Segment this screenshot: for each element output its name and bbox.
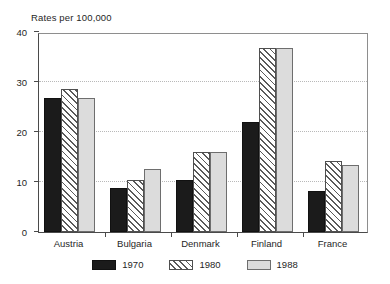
- x-axis-label-bulgaria: Bulgaria: [117, 238, 152, 249]
- x-axis-tick: [171, 232, 172, 237]
- legend-label-1970: 1970: [122, 259, 143, 270]
- x-axis-label-denmark: Denmark: [181, 238, 220, 249]
- bar-denmark-1970: [176, 180, 193, 233]
- legend-swatch-1988: [247, 260, 271, 270]
- chart-title: Rates per 100,000: [31, 12, 112, 23]
- y-axis-tick-label: 40: [16, 27, 27, 38]
- bar-france-1980: [325, 161, 342, 232]
- bar-group: [39, 34, 105, 232]
- legend-item-1970: 1970: [92, 259, 143, 270]
- bar-group: [303, 34, 369, 232]
- y-axis-tick: 40: [34, 31, 39, 32]
- bar-france-1988: [342, 165, 359, 233]
- bar-france-1970: [308, 191, 325, 233]
- bar-austria-1970: [44, 98, 61, 232]
- x-axis-tick: [237, 232, 238, 237]
- legend-label-1980: 1980: [199, 259, 220, 270]
- legend-item-1980: 1980: [169, 259, 220, 270]
- bar-austria-1988: [78, 98, 95, 233]
- legend-label-1988: 1988: [277, 259, 298, 270]
- bar-group: [171, 34, 237, 232]
- x-axis-tick: [303, 232, 304, 237]
- y-axis-tick-label: 10: [16, 177, 27, 188]
- bar-bulgaria-1988: [144, 169, 161, 232]
- plot-area: 010203040: [38, 33, 368, 233]
- bar-group: [105, 34, 171, 232]
- x-axis-label-france: France: [318, 238, 348, 249]
- bar-bulgaria-1970: [110, 188, 127, 232]
- y-axis-tick-label: 30: [16, 77, 27, 88]
- legend: 197019801988: [0, 259, 390, 270]
- bar-finland-1970: [242, 122, 259, 232]
- x-axis-label-austria: Austria: [54, 238, 84, 249]
- bar-denmark-1988: [210, 152, 227, 232]
- legend-swatch-1970: [92, 260, 116, 270]
- legend-item-1988: 1988: [247, 259, 298, 270]
- bar-finland-1988: [276, 48, 293, 232]
- bar-austria-1980: [61, 89, 78, 232]
- bar-chart: Rates per 100,000 010203040 AustriaBulga…: [0, 0, 390, 284]
- x-axis-label-finland: Finland: [251, 238, 282, 249]
- bar-group: [237, 34, 303, 232]
- y-axis-tick-label: 20: [16, 127, 27, 138]
- bar-denmark-1980: [193, 152, 210, 232]
- bar-bulgaria-1980: [127, 180, 144, 233]
- bar-finland-1980: [259, 48, 276, 232]
- legend-swatch-1980: [169, 260, 193, 270]
- x-axis-tick: [105, 232, 106, 237]
- y-axis-tick-label: 0: [22, 227, 27, 238]
